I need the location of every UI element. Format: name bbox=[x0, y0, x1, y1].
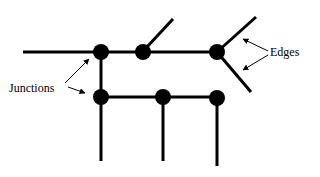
junction-node bbox=[93, 44, 109, 60]
arrow-to-junction-bottom bbox=[68, 87, 85, 93]
junction-node bbox=[93, 89, 109, 105]
junction-node bbox=[209, 90, 225, 106]
junctions-label: Junctions bbox=[9, 82, 54, 94]
junction-node bbox=[209, 44, 225, 60]
arrow-to-edge-up bbox=[243, 39, 268, 51]
edge-upper-branch bbox=[146, 19, 173, 48]
junction-node bbox=[155, 89, 171, 105]
junctions-edges-diagram: Junctions Edges bbox=[0, 0, 320, 177]
arrow-to-junction-top bbox=[65, 59, 89, 83]
edges-label: Edges bbox=[270, 46, 299, 58]
arrow-to-edge-down bbox=[243, 55, 268, 70]
junction-node bbox=[135, 44, 151, 60]
